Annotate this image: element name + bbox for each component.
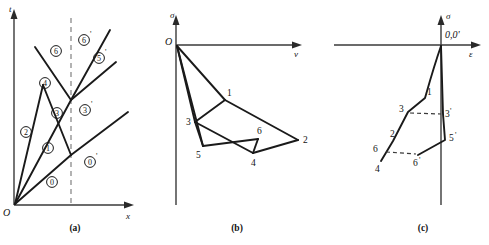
panel-a-y-axis-arrowhead [11, 9, 18, 19]
panel-a-region-0-prime: 0 ' [85, 152, 98, 167]
panel-a-char-line-left [15, 85, 43, 204]
panel-c-point-5-prime-mark: ' [455, 131, 457, 140]
region-label-text: 0 [88, 158, 92, 167]
region-label-text: 4 [43, 79, 47, 88]
panel-b-edge-1-3 [195, 100, 225, 122]
panel-b-point-label-2: 2 [303, 135, 308, 145]
panel-c-origin-label: 0,0' [445, 29, 461, 40]
panel-a-y-axis-label: t [9, 4, 12, 14]
panel-b-point-label-1: 1 [227, 88, 232, 98]
panel-a-char-line-transmitted-shallow [71, 62, 116, 100]
panel-c-dashed-link-6-6prime [386, 152, 416, 154]
panel-a-x-axis-label: x [125, 211, 130, 221]
panel-c: σ ε 0,0' 1 2 3 3 ' 4 5 ' 6 6 ' (c) [334, 11, 481, 234]
panel-a-region-6: 6 [51, 46, 62, 57]
panel-a: t x O 0 0 ' 1 2 3 3 ' [3, 4, 134, 234]
region-prime-mark: ' [90, 30, 92, 39]
panel-c-y-axis-label: σ [446, 11, 451, 21]
panel-b-x-axis-arrowhead [292, 42, 302, 49]
panel-c-x-axis-arrowhead [471, 42, 481, 49]
panel-b-point-label-4: 4 [251, 158, 256, 168]
panel-b-point-label-5: 5 [196, 150, 201, 160]
panel-a-region-2: 2 [21, 127, 32, 138]
panel-b-origin-label: O [165, 36, 172, 47]
panel-a-region-6-prime: 6 ' [79, 30, 92, 45]
panel-c-caption: (c) [418, 223, 429, 234]
panel-c-x-axis-label: ε [469, 49, 473, 59]
panel-b-x-axis-label: v [294, 49, 298, 59]
region-label-text: 1 [46, 144, 50, 153]
region-label-text: 5 [97, 54, 101, 63]
region-prime-mark: ' [105, 48, 107, 57]
panel-c-point-6-prime-mark: ' [419, 156, 421, 165]
panel-c-point-3-prime-mark: ' [450, 107, 452, 116]
panel-c-point-label-3: 3 [399, 104, 404, 114]
region-label-text: 6 [54, 47, 58, 56]
panel-c-point-label-5-prime: 5 ' [449, 131, 457, 143]
panel-c-point-5-prime-text: 5 [449, 133, 454, 143]
panel-c-point-label-1: 1 [427, 87, 432, 97]
region-prime-mark: ' [91, 100, 93, 109]
panel-c-curve-unprimed [381, 46, 441, 161]
panel-a-char-line-transmitted-steep [71, 30, 110, 100]
panel-b-y-axis-label: σ [170, 10, 175, 20]
panel-a-region-0: 0 [47, 177, 58, 188]
panel-b-edge-3-4 [195, 122, 253, 153]
panel-c-point-label-6-prime: 6 ' [413, 156, 421, 168]
region-label-text: 3 [55, 109, 59, 118]
panel-b-point-label-3: 3 [186, 117, 191, 127]
region-label-text: 2 [24, 128, 28, 137]
panel-c-dashed-link-3-3prime [410, 113, 441, 114]
panel-a-region-3-prime: 3 ' [80, 100, 93, 115]
region-label-text: 0 [50, 178, 54, 187]
panel-b-point-label-6: 6 [257, 126, 262, 136]
panel-c-point-label-2: 2 [390, 129, 395, 139]
region-prime-mark: ' [96, 152, 98, 161]
panel-c-y-axis-arrowhead [438, 15, 445, 25]
panel-a-char-line-transmitted-lower [71, 112, 128, 155]
panel-a-char-line-mid [15, 100, 71, 204]
panel-b-caption: (b) [231, 223, 243, 234]
panel-a-region-4: 4 [40, 78, 51, 89]
panel-c-point-label-3-prime: 3 ' [445, 107, 452, 119]
region-label-text: 3 [83, 106, 87, 115]
panel-c-point-6-prime-text: 6 [413, 158, 418, 168]
panel-a-origin-label: O [3, 207, 10, 218]
panel-a-char-line-lower [15, 155, 71, 204]
panel-c-point-label-4: 4 [375, 164, 380, 174]
panel-c-point-label-6: 6 [373, 144, 378, 154]
panel-b: σ v O 1 2 3 4 5 6 (b) [165, 10, 308, 234]
region-label-text: 6 [82, 36, 86, 45]
panel-a-caption: (a) [69, 223, 80, 234]
figure-container: t x O 0 0 ' 1 2 3 3 ' [0, 0, 489, 245]
panel-a-x-axis-arrowhead [124, 202, 134, 209]
panel-b-edge-4-2 [253, 140, 298, 153]
